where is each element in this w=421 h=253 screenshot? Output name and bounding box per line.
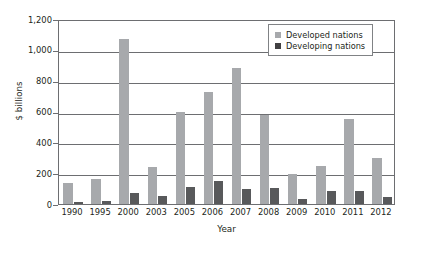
bar-group [199,21,227,204]
bar [148,167,158,204]
bar [327,191,336,204]
x-axis-tick-label: 2008 [255,207,283,217]
x-axis-tick-label: 2003 [142,207,170,217]
bar-group [228,21,256,204]
bar-group [171,21,199,204]
y-axis-title: $ billions [14,56,24,146]
bar-group [87,21,115,204]
legend-label-developed: Developed nations [286,30,363,40]
y-axis-tick-label: 200 [10,169,52,179]
legend-swatch-icon-developing [275,43,281,49]
chart-legend: Developed nations Developing nations [268,24,373,56]
bar [383,197,392,204]
bar-chart-figure: $ billions 02004006008001,0001,200 19901… [0,0,421,253]
bar [186,187,195,204]
bar [270,188,279,204]
bar [316,166,326,204]
x-axis-tick-label: 2010 [311,207,339,217]
bar [63,183,73,204]
bar [344,119,354,204]
x-axis-title: Year [58,224,395,234]
x-axis-tick-label: 2000 [114,207,142,217]
legend-label-developing: Developing nations [286,41,365,51]
bar [176,112,186,205]
y-axis-tick-label: 1,200 [10,15,52,25]
x-axis-tick-label: 2005 [170,207,198,217]
y-axis-tick-mark [53,205,58,206]
bar-group [59,21,87,204]
x-axis-tick-label: 2006 [198,207,226,217]
y-axis-tick-label: 0 [10,200,52,210]
bar [158,196,167,204]
bar-group [115,21,143,204]
bar [372,158,382,204]
x-axis-tick-label: 2007 [227,207,255,217]
x-axis-tick-label: 2012 [367,207,395,217]
bar [214,181,223,204]
bar [204,92,214,204]
bar [91,179,101,204]
bar [102,201,111,204]
x-axis-tick-label: 2009 [283,207,311,217]
bar-group [143,21,171,204]
bar [74,202,83,204]
bar [119,39,129,204]
x-axis-tick-labels: 1990199520002003200520062007200820092010… [58,207,395,223]
bar [288,174,298,204]
y-axis-tick-label: 1,000 [10,45,52,55]
bar [355,191,364,204]
legend-swatch-icon-developed [275,32,281,38]
bar [298,199,307,204]
x-axis-tick-label: 2011 [339,207,367,217]
bar [242,189,251,204]
bar [260,115,270,204]
bar [130,193,139,204]
x-axis-tick-label: 1990 [58,207,86,217]
bar [232,68,242,204]
x-axis-tick-label: 1995 [86,207,114,217]
legend-item-developed: Developed nations [275,29,365,40]
legend-item-developing: Developing nations [275,40,365,51]
